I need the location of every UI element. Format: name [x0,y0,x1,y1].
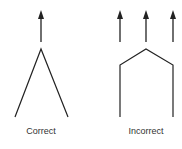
incorrect-label: Incorrect [106,126,182,136]
arrowhead-icon [143,10,149,19]
inverted-v-shape [15,49,68,117]
correct-label: Correct [1,126,81,136]
house-outline-shape [120,49,173,117]
arrowhead-icon [170,10,176,19]
correct-diagram [15,10,68,117]
arrowhead-icon [117,10,123,19]
incorrect-diagram [117,10,176,117]
arrowhead-icon [38,10,44,19]
